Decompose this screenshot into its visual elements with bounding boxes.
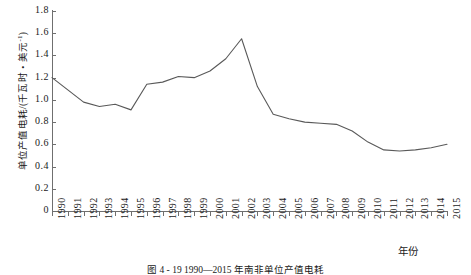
line-series-path <box>52 39 447 151</box>
figure-container: 单位产值电耗/(千瓦时・美元-1) 1.81.61.41.21.00.80.60… <box>0 0 471 275</box>
data-series-plot <box>0 0 471 275</box>
x-axis-title: 年份 <box>398 243 418 258</box>
figure-caption: 图 4 - 19 1990—2015 年南非单位产值电耗 <box>0 262 471 275</box>
